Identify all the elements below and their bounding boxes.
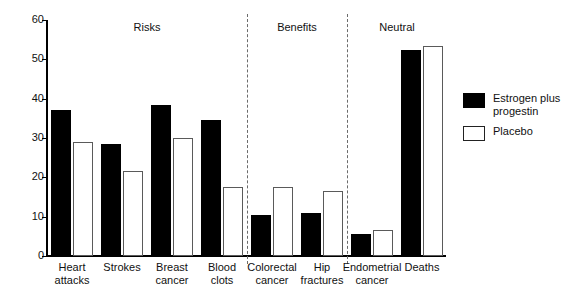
bar-placebo [273, 187, 293, 256]
category-label-line: cancer [327, 274, 417, 287]
bar-placebo [423, 46, 443, 256]
chart-legend: Estrogen plus progestin Placebo [463, 92, 578, 148]
y-tick-label: 0 [18, 250, 44, 261]
y-tick-label: 40 [18, 93, 44, 104]
legend-item-placebo: Placebo [463, 125, 578, 141]
bar-placebo [173, 138, 193, 256]
legend-swatch-outlined-icon [463, 126, 485, 141]
legend-label-treatment: Estrogen plus progestin [493, 92, 578, 118]
category-label: Deaths [377, 261, 467, 274]
y-tick-label: 30 [18, 132, 44, 143]
legend-item-treatment: Estrogen plus progestin [463, 92, 578, 118]
bar-placebo [223, 187, 243, 256]
y-tick-label: 20 [18, 171, 44, 182]
bar-placebo [323, 191, 343, 256]
bar-treatment [351, 234, 371, 256]
plot-area [47, 20, 447, 256]
y-tick-label: 50 [18, 53, 44, 64]
category-label-line: Deaths [377, 261, 467, 274]
bar-treatment [101, 144, 121, 256]
bar-treatment [201, 120, 221, 256]
legend-swatch-filled-icon [463, 93, 485, 108]
bar-placebo [123, 171, 143, 256]
bar-treatment [251, 215, 271, 256]
bar-placebo [373, 230, 393, 256]
y-tick-label: 10 [18, 211, 44, 222]
bar-placebo [73, 142, 93, 256]
bar-treatment [401, 50, 421, 257]
bar-treatment [51, 110, 71, 256]
y-tick-label: 60 [18, 14, 44, 25]
bar-treatment [301, 213, 321, 256]
category-label-line: attacks [27, 274, 117, 287]
legend-label-placebo: Placebo [493, 125, 533, 138]
bar-chart: 0102030405060 RisksBenefitsNeutral Heart… [0, 0, 578, 303]
bar-treatment [151, 105, 171, 256]
